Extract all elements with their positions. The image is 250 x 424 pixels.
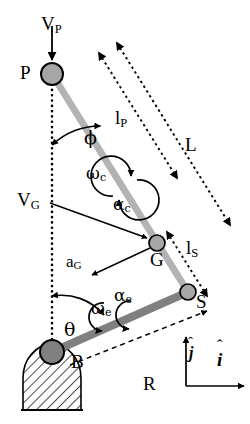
joint-B <box>40 340 64 364</box>
label-lP: lP <box>115 108 127 129</box>
joint-S <box>180 284 196 300</box>
label-VG: VG <box>17 190 40 211</box>
label-S: S <box>196 292 207 311</box>
vector-aG-arrow <box>92 248 150 275</box>
label-j-hat: ˆ j <box>189 345 193 361</box>
label-R: R <box>143 374 156 393</box>
label-phi: ϕ <box>84 128 97 147</box>
label-lS: lS <box>186 238 198 259</box>
unit-vector-frame <box>186 337 244 386</box>
label-aG: aG <box>66 253 82 272</box>
label-omega-e: ωe <box>91 300 112 319</box>
label-VP: VP <box>41 14 62 35</box>
label-alpha-c: αc <box>113 196 131 215</box>
label-i-hat: ˆ i <box>217 350 222 369</box>
diagram-canvas: VP P VG aG G S B ϕ θ ωc αc ωe αe lP lS L… <box>0 0 250 424</box>
label-G: G <box>150 250 164 269</box>
dimension-lP-arrow <box>99 53 177 178</box>
label-alpha-e: αe <box>114 287 132 306</box>
label-theta: θ <box>64 320 75 339</box>
joint-P <box>41 63 63 85</box>
dimension-L-arrow <box>117 43 230 225</box>
label-omega-c: ωc <box>86 165 106 184</box>
label-L: L <box>185 135 197 154</box>
label-B: B <box>71 352 84 371</box>
label-P: P <box>20 63 31 82</box>
